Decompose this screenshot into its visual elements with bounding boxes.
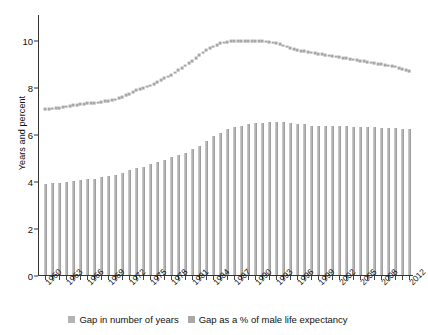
line-marker bbox=[320, 53, 323, 56]
line-marker bbox=[216, 44, 219, 47]
y-tick-mark bbox=[34, 276, 38, 277]
line-marker bbox=[310, 51, 313, 54]
line-marker bbox=[268, 41, 271, 44]
line-marker bbox=[334, 55, 337, 58]
line-marker bbox=[107, 99, 110, 102]
bar bbox=[247, 124, 250, 275]
bar bbox=[65, 182, 68, 275]
line-marker bbox=[373, 62, 376, 65]
bar bbox=[275, 122, 278, 275]
bar bbox=[121, 173, 124, 275]
bar bbox=[373, 127, 376, 275]
line-marker bbox=[303, 50, 306, 53]
legend-swatch-icon bbox=[188, 316, 195, 323]
line-marker bbox=[76, 103, 79, 106]
line-marker bbox=[289, 46, 292, 49]
bar bbox=[366, 127, 369, 275]
bar bbox=[401, 129, 404, 275]
line-marker bbox=[348, 58, 351, 61]
y-axis-title: Years and percent bbox=[17, 53, 27, 213]
bar bbox=[310, 126, 313, 275]
bar bbox=[135, 168, 138, 275]
line-marker bbox=[383, 64, 386, 67]
line-marker bbox=[146, 85, 149, 88]
line-marker bbox=[156, 81, 159, 84]
legend-swatch-icon bbox=[68, 316, 75, 323]
bar bbox=[170, 157, 173, 275]
bar bbox=[219, 133, 222, 275]
line-marker bbox=[355, 59, 358, 62]
line-marker bbox=[376, 62, 379, 65]
line-marker bbox=[243, 39, 246, 42]
bar bbox=[324, 126, 327, 275]
line-marker bbox=[198, 54, 201, 57]
bar bbox=[317, 126, 320, 275]
y-tick-label: 4 bbox=[28, 176, 33, 187]
line-marker bbox=[191, 59, 194, 62]
line-marker bbox=[341, 56, 344, 59]
y-tick-label: 2 bbox=[28, 223, 33, 234]
y-tick-mark bbox=[34, 40, 38, 41]
y-tick-mark bbox=[34, 87, 38, 88]
line-marker bbox=[222, 41, 225, 44]
bar bbox=[191, 149, 194, 275]
line-marker bbox=[380, 63, 383, 66]
line-marker bbox=[408, 70, 411, 73]
bar bbox=[205, 141, 208, 275]
bar bbox=[44, 184, 47, 275]
line-marker bbox=[139, 88, 142, 91]
bar bbox=[254, 123, 257, 275]
line-marker bbox=[292, 48, 295, 51]
line-marker bbox=[118, 97, 121, 100]
bar bbox=[261, 123, 264, 275]
line-marker bbox=[69, 105, 72, 108]
bar bbox=[289, 123, 292, 275]
bar bbox=[114, 175, 117, 275]
bar bbox=[226, 129, 229, 275]
line-marker bbox=[132, 91, 135, 94]
line-marker bbox=[394, 65, 397, 68]
line-marker bbox=[97, 101, 100, 104]
line-marker bbox=[160, 79, 163, 82]
line-marker bbox=[254, 39, 257, 42]
bar bbox=[198, 146, 201, 275]
bar bbox=[345, 126, 348, 275]
y-tick-label: 10 bbox=[22, 35, 33, 46]
legend-label: Gap as a % of male life expectancy bbox=[199, 314, 348, 325]
line-marker bbox=[233, 39, 236, 42]
bar bbox=[296, 124, 299, 275]
bar bbox=[177, 155, 180, 275]
line-marker bbox=[352, 58, 355, 61]
line-marker bbox=[229, 40, 232, 43]
line-marker bbox=[111, 99, 114, 102]
line-marker bbox=[366, 61, 369, 64]
line-marker bbox=[181, 66, 184, 69]
bar bbox=[233, 127, 236, 275]
line-marker bbox=[174, 71, 177, 74]
line-marker bbox=[285, 45, 288, 48]
line-marker bbox=[275, 42, 278, 45]
bar bbox=[156, 162, 159, 275]
line-marker bbox=[44, 108, 47, 111]
bar bbox=[387, 128, 390, 275]
line-marker bbox=[188, 62, 191, 65]
line-marker bbox=[299, 49, 302, 52]
line-marker bbox=[167, 75, 170, 78]
line-marker bbox=[212, 45, 215, 48]
line-marker bbox=[100, 101, 103, 104]
line-marker bbox=[226, 41, 229, 44]
y-axis-line bbox=[38, 15, 39, 276]
line-marker bbox=[317, 52, 320, 55]
line-marker bbox=[261, 40, 264, 43]
line-marker bbox=[397, 66, 400, 69]
bar bbox=[359, 127, 362, 275]
line-marker bbox=[387, 64, 390, 67]
y-tick-mark bbox=[34, 134, 38, 135]
bar bbox=[240, 126, 243, 275]
bar bbox=[149, 164, 152, 275]
line-marker bbox=[345, 57, 348, 60]
line-marker bbox=[93, 102, 96, 105]
bar bbox=[268, 122, 271, 275]
legend-item: Gap as a % of male life expectancy bbox=[188, 314, 348, 325]
line-marker bbox=[282, 44, 285, 47]
